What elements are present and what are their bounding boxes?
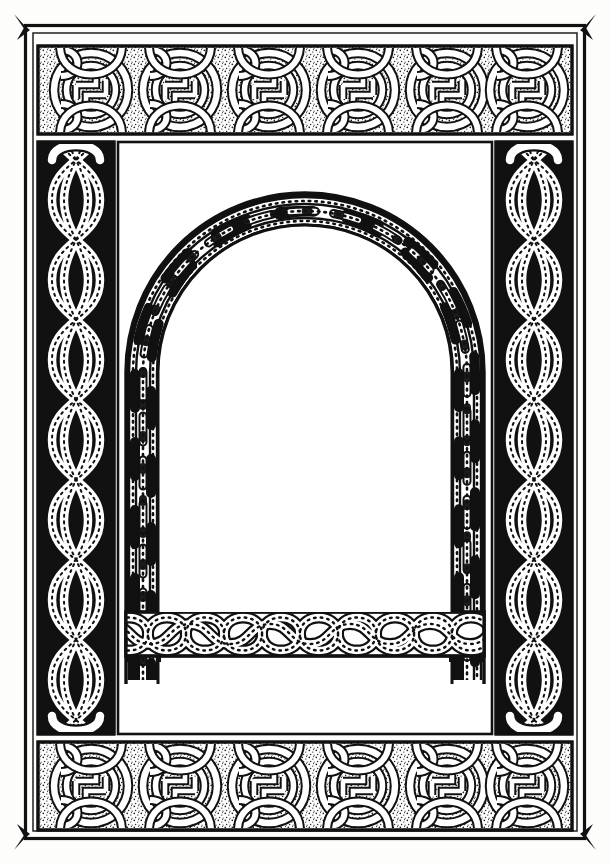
- left-plait-panel: [38, 120, 114, 760]
- manuscript-page: Celtic Knotwork Page Border Top knotwork…: [0, 0, 610, 864]
- arch-interior: [158, 225, 452, 612]
- right-plait-panel: [496, 120, 572, 760]
- arch-knot-frame: [110, 193, 500, 684]
- arch-base-band: [110, 612, 500, 656]
- top-knot-band: [38, 46, 572, 134]
- celtic-border-artwork: [0, 0, 610, 864]
- bottom-knot-band: [38, 742, 572, 830]
